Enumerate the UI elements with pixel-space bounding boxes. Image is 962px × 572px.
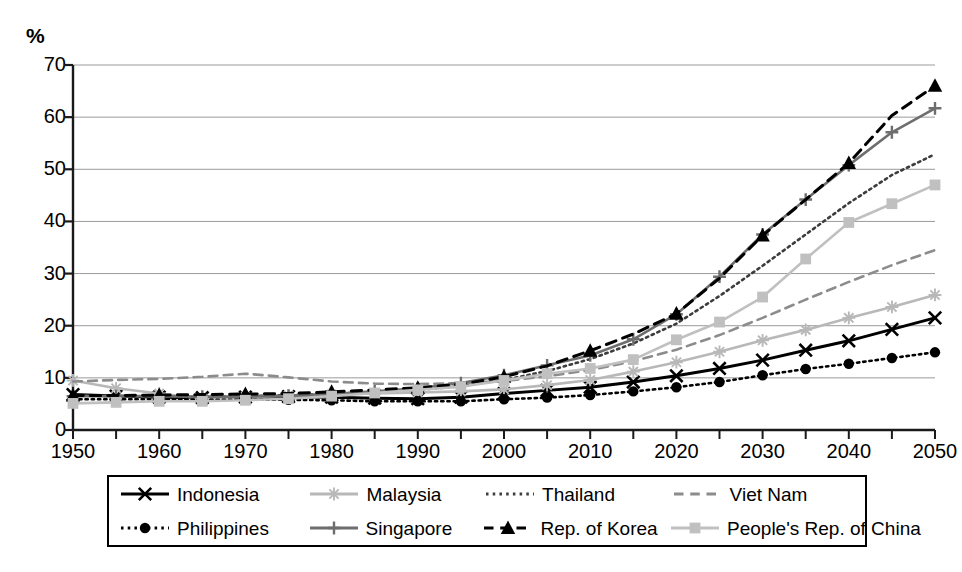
data-point-marker — [628, 354, 639, 365]
legend-item-malaysia[interactable]: Malaysia — [308, 477, 484, 511]
data-point-marker — [929, 289, 942, 302]
legend-swatch-plus-icon — [308, 518, 360, 538]
data-point-marker — [413, 396, 423, 406]
legend-swatch-x-icon — [119, 484, 171, 504]
data-point-marker — [456, 396, 466, 406]
data-point-marker — [714, 317, 725, 328]
data-point-marker — [713, 345, 726, 358]
x-tick-label-2050: 2050 — [900, 441, 962, 461]
legend-item-philippines[interactable]: Philippines — [119, 511, 308, 545]
legend-swatch-triangle-icon — [482, 518, 534, 538]
data-point-marker — [499, 394, 509, 404]
data-point-marker — [627, 365, 640, 378]
data-point-marker — [628, 386, 638, 396]
series-rep-of-korea — [66, 78, 942, 401]
x-tick-label-2030: 2030 — [728, 441, 798, 461]
data-point-marker — [887, 353, 897, 363]
x-tick-label-1960: 1960 — [124, 441, 194, 461]
x-tick-label-1970: 1970 — [210, 441, 280, 461]
series-line — [73, 154, 935, 397]
legend-swatch-dotted-icon — [484, 484, 536, 504]
series-singapore — [67, 102, 942, 403]
data-point-marker — [327, 522, 340, 535]
data-point-marker — [197, 396, 208, 407]
x-tick-label-1950: 1950 — [38, 441, 108, 461]
x-tick-label-2010: 2010 — [555, 441, 625, 461]
data-point-marker — [800, 254, 811, 265]
x-tick-label-1980: 1980 — [297, 441, 367, 461]
data-point-marker — [843, 217, 854, 228]
legend-label: Malaysia — [360, 485, 445, 504]
data-point-marker — [929, 102, 942, 115]
legend-swatch-circle-icon — [119, 518, 171, 538]
legend-label: Indonesia — [171, 485, 263, 504]
legend-item-rep-of-korea[interactable]: Rep. of Korea — [482, 511, 669, 545]
series-line — [73, 108, 935, 396]
data-point-marker — [756, 334, 769, 347]
data-point-marker — [928, 78, 942, 92]
data-point-marker — [541, 379, 554, 392]
legend-row: IndonesiaMalaysiaThailandViet Nam — [109, 477, 865, 511]
data-point-marker — [240, 395, 251, 406]
data-point-marker — [714, 377, 724, 387]
legend-label: Thailand — [536, 485, 619, 504]
legend-label: Singapore — [360, 519, 457, 538]
data-point-marker — [930, 347, 940, 357]
legend-item-people-s-rep-of-china[interactable]: People's Rep. of China — [669, 511, 865, 545]
data-point-marker — [690, 523, 701, 534]
data-point-marker — [456, 381, 467, 392]
data-point-marker — [757, 370, 767, 380]
data-point-marker — [887, 198, 898, 209]
data-point-marker — [585, 390, 595, 400]
legend-swatch-star-icon — [308, 484, 360, 504]
data-point-marker — [499, 375, 510, 386]
data-point-marker — [328, 488, 341, 501]
data-point-marker — [671, 382, 681, 392]
data-point-marker — [757, 292, 768, 303]
data-point-marker — [542, 368, 553, 379]
data-point-marker — [154, 396, 165, 407]
legend-label: Viet Nam — [724, 485, 812, 504]
data-point-marker — [670, 356, 683, 369]
legend-label: Philippines — [171, 519, 273, 538]
data-point-marker — [326, 391, 337, 402]
legend-item-thailand[interactable]: Thailand — [484, 477, 671, 511]
legend-label: Rep. of Korea — [534, 519, 661, 538]
data-point-marker — [585, 363, 596, 374]
data-point-marker — [140, 523, 150, 533]
chart-legend: IndonesiaMalaysiaThailandViet NamPhilipp… — [107, 475, 867, 547]
data-point-marker — [842, 311, 855, 324]
x-tick-label-2000: 2000 — [469, 441, 539, 461]
x-tick-label-2020: 2020 — [641, 441, 711, 461]
legend-swatch-dashed-icon — [672, 484, 724, 504]
data-point-marker — [799, 323, 812, 336]
legend-item-singapore[interactable]: Singapore — [308, 511, 483, 545]
x-tick-label-1990: 1990 — [383, 441, 453, 461]
data-point-marker — [801, 364, 811, 374]
data-point-marker — [369, 388, 380, 399]
legend-swatch-square-icon — [669, 518, 721, 538]
data-point-marker — [671, 334, 682, 345]
legend-item-indonesia[interactable]: Indonesia — [119, 477, 308, 511]
x-tick-label-2040: 2040 — [814, 441, 884, 461]
data-point-marker — [542, 392, 552, 402]
data-point-marker — [111, 397, 122, 408]
data-point-marker — [886, 301, 899, 314]
data-point-marker — [412, 384, 423, 395]
legend-item-viet-nam[interactable]: Viet Nam — [672, 477, 865, 511]
legend-label: People's Rep. of China — [721, 519, 925, 538]
chart-container: % 706050403020100 IndonesiaMalaysiaThail… — [0, 0, 962, 572]
data-point-marker — [844, 359, 854, 369]
data-point-marker — [283, 393, 294, 404]
legend-row: PhilippinesSingaporeRep. of KoreaPeople'… — [109, 511, 865, 545]
data-point-marker — [68, 398, 79, 409]
series-thailand — [73, 154, 935, 397]
data-point-marker — [930, 180, 941, 191]
data-point-marker — [584, 374, 597, 387]
